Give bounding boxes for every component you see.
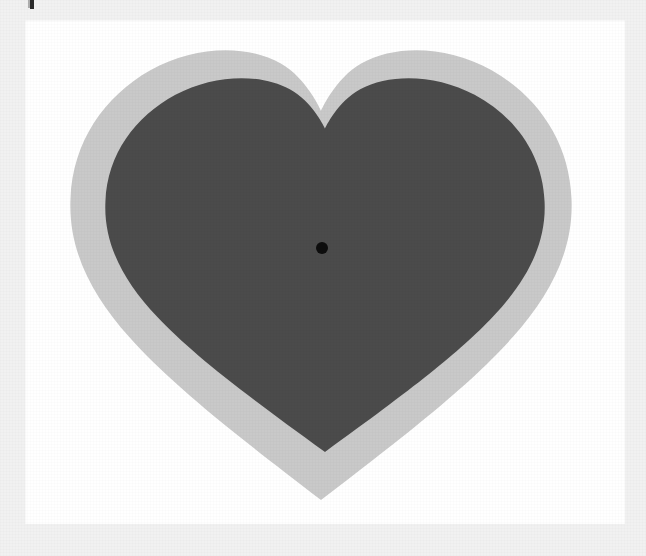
top-edge-scan-mark — [30, 0, 34, 9]
center-dot-marker — [316, 242, 328, 254]
inner-heart-shape — [105, 78, 544, 452]
figure-root: Heart shape with offset outline and cent… — [0, 0, 646, 556]
heart-graphic-stage — [25, 20, 625, 524]
